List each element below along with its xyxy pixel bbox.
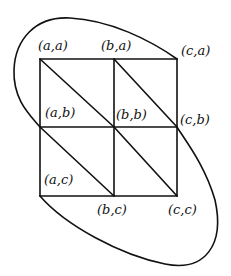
label-bb: (b,b) [116,108,147,121]
label-ac: (a,c) [44,173,73,186]
label-bc: (b,c) [97,203,127,216]
label-cb: (c,b) [180,113,210,126]
label-cc: (c,c) [168,203,197,216]
label-ab: (a,b) [45,106,75,119]
label-ca: (c,a) [181,44,210,57]
diagonal-bb-cc [114,127,177,196]
label-ba: (b,a) [101,39,131,52]
label-aa: (a,a) [38,39,68,52]
